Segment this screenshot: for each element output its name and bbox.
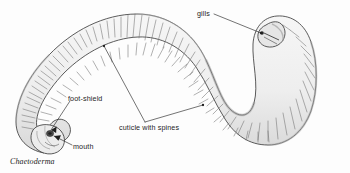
endpoint-cuticle-b [202,104,204,106]
endpoint-cuticle-a [103,45,105,47]
figure-container: gills foot-shield mouth cuticle with spi… [0,0,350,173]
label-foot-shield: foot-shield [68,95,102,102]
label-mouth: mouth [73,143,94,150]
leader-cuticle-a [104,46,145,122]
figure-caption: Chaetoderma [10,158,55,166]
label-cuticle-with-spines: cuticle with spines [119,124,179,131]
mouth-inner [48,132,51,135]
endpoint-gills [260,32,262,34]
chaetoderma-illustration [0,0,350,173]
leader-cuticle-b [145,105,203,122]
worm-body [16,14,316,154]
label-gills: gills [197,10,210,17]
leader-gills [214,14,261,33]
